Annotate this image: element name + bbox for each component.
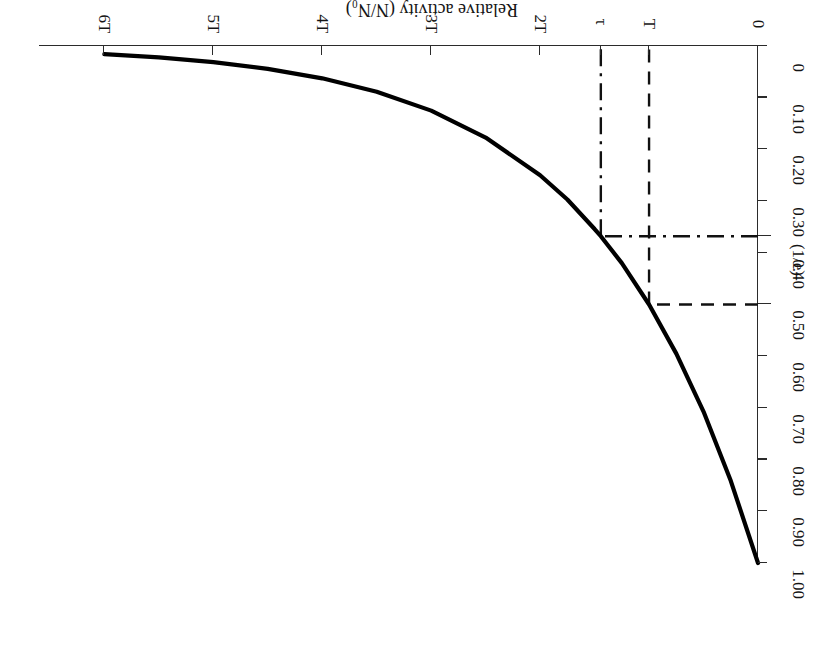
x-tick-label-4T: 4T	[312, 4, 332, 44]
y-tick-label-100: 1.00	[788, 523, 808, 599]
x-tick-0	[757, 46, 758, 55]
y-tick-one-over-e	[758, 235, 771, 236]
x-tick-2T	[539, 46, 540, 55]
y-tick-030	[758, 200, 767, 201]
plot-canvas	[0, 0, 814, 668]
x-tick-label-2T: 2T	[530, 4, 550, 44]
y-tick-010	[758, 96, 767, 97]
x-tick-5T	[212, 46, 213, 55]
x-tick-label-6T: 6T	[94, 4, 114, 44]
y-tick-0	[758, 45, 767, 46]
x-tick-3T	[430, 46, 431, 55]
x-tick-4T	[321, 46, 322, 55]
x-tick-label-tau: τ	[591, 2, 611, 42]
y-axis-title: Relative activity (N/N₀)	[346, 0, 518, 20]
y-tick-060	[758, 355, 767, 356]
decay-curve-figure: 0 T τ 2T 3T 4T 5T 6T 0 0.10 0.20 0.30 (1…	[0, 0, 814, 668]
x-tick-label-5T: 5T	[203, 4, 223, 44]
y-tick-090	[758, 510, 767, 511]
x-tick-6T	[103, 46, 104, 55]
y-tick-100	[758, 562, 767, 563]
x-tick-label-T: T	[639, 4, 659, 44]
y-tick-020	[758, 148, 767, 149]
y-tick-040	[758, 252, 767, 253]
x-tick-label-0: 0	[748, 4, 768, 44]
y-tick-050	[758, 303, 771, 304]
exponential-decay-curve	[104, 54, 758, 563]
y-tick-080	[758, 458, 767, 459]
y-tick-070	[758, 407, 767, 408]
x-tick-tau	[600, 46, 601, 55]
x-tick-T	[648, 46, 649, 55]
